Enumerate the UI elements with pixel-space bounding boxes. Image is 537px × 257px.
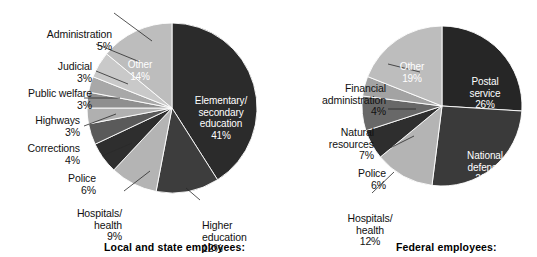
leader-police-local (102, 143, 132, 156)
leader-higher-education (186, 188, 200, 200)
slice-label-national-defense: Nationaldefense26% (452, 127, 518, 208)
slice-label-postal-service: Postalservice26% (452, 53, 518, 134)
slice-label-other-local: Other14% (109, 36, 171, 105)
slice-label-postal-service-text: Postalservice26% (452, 76, 518, 111)
slice-label-other-federal-text: Other19% (381, 61, 443, 84)
label-police-federal-text: Police6% (288, 168, 386, 191)
right-chart-caption: Federal employees: (396, 241, 497, 253)
left-chart-caption: Local and state employees: (104, 241, 245, 253)
slice-label-other-local-text: Other14% (109, 59, 171, 82)
slice-label-elementary-secondary-education-text: Elementary/secondaryeducation41% (176, 95, 266, 141)
slice-label-national-defense-text: Nationaldefense26% (452, 150, 518, 185)
figure-canvas: Administration5% Judicial3% Public welfa… (0, 0, 537, 257)
slice-label-other-federal: Other19% (381, 38, 443, 107)
leader-hospitals-health-local (124, 171, 150, 191)
label-hospitals-health-local-text: Hospitals/health9% (12, 208, 122, 243)
leader-police-federal (388, 136, 414, 149)
slice-label-elementary-secondary-education: Elementary/secondaryeducation41% (176, 72, 266, 164)
